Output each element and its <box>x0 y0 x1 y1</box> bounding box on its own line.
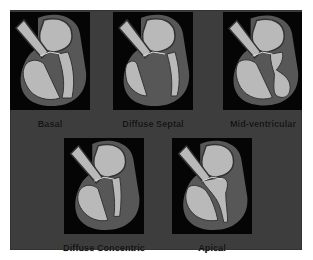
heart-diffuse-septal-illustration <box>113 12 193 110</box>
panel-mid-ventricular <box>223 12 302 110</box>
label-diffuse-concentric: Diffuse Concentric <box>54 243 154 253</box>
heart-apical-illustration <box>172 138 252 234</box>
label-apical: Apical <box>172 243 252 253</box>
label-mid-ventricular: Mid-ventricular <box>218 119 308 129</box>
label-diffuse-septal: Diffuse Septal <box>106 119 200 129</box>
panel-basal <box>10 12 90 110</box>
heart-basal-illustration <box>10 12 90 110</box>
panel-apical <box>172 138 252 234</box>
heart-diffuse-concentric-illustration <box>64 138 144 234</box>
panel-diffuse-septal <box>113 12 193 110</box>
label-basal: Basal <box>10 119 90 129</box>
panel-diffuse-concentric <box>64 138 144 234</box>
heart-mid-ventricular-illustration <box>223 12 302 110</box>
figure-board: Basal Diffuse Septal Mid-ventricular <box>10 10 302 250</box>
